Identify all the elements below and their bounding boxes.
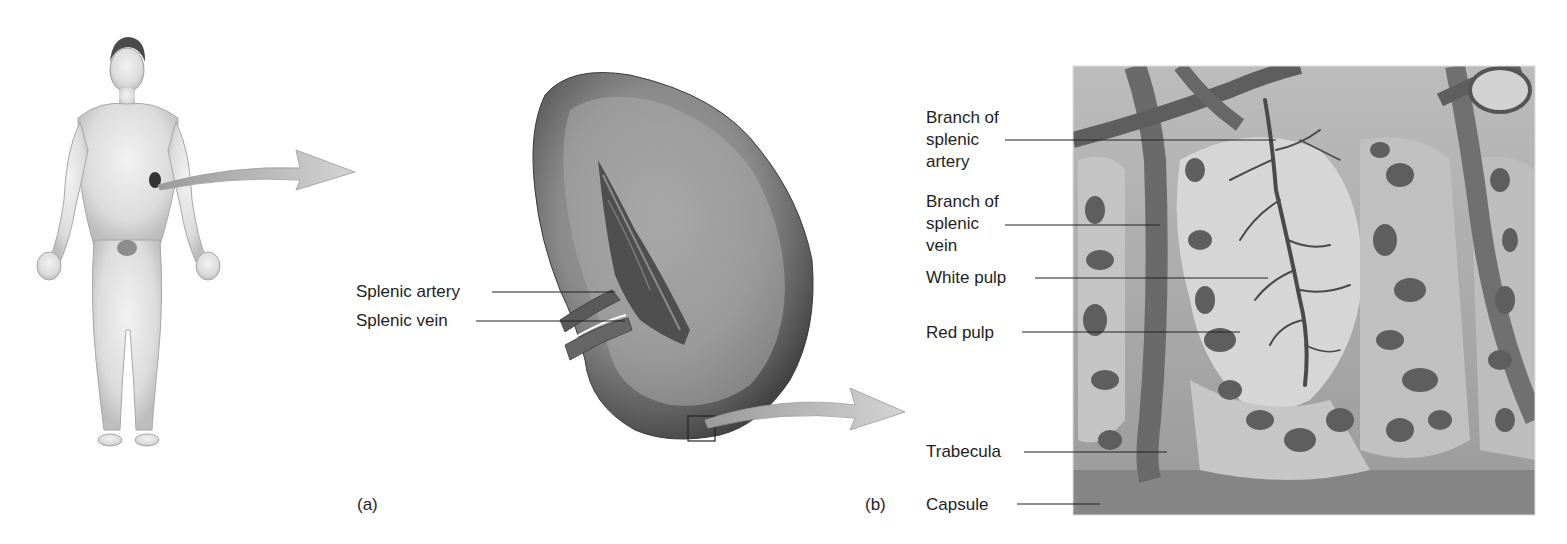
panel-tag-a: (a) [357, 494, 378, 516]
label-white-pulp: White pulp [926, 267, 1006, 289]
label-branch-splenic-artery: Branch of splenic artery [926, 107, 999, 173]
label-splenic-vein: Splenic vein [356, 310, 448, 332]
spleen-tissue-section [1073, 66, 1535, 515]
spleen-organ [533, 73, 813, 442]
label-red-pulp: Red pulp [926, 322, 994, 344]
panel-tag-b: (b) [865, 494, 886, 516]
label-trabecula: Trabecula [926, 441, 1001, 463]
diagram-artwork [0, 0, 1567, 544]
label-splenic-artery: Splenic artery [356, 281, 460, 303]
label-capsule: Capsule [926, 494, 988, 516]
human-body-figure [37, 37, 220, 446]
label-branch-splenic-vein: Branch of splenic vein [926, 191, 999, 257]
